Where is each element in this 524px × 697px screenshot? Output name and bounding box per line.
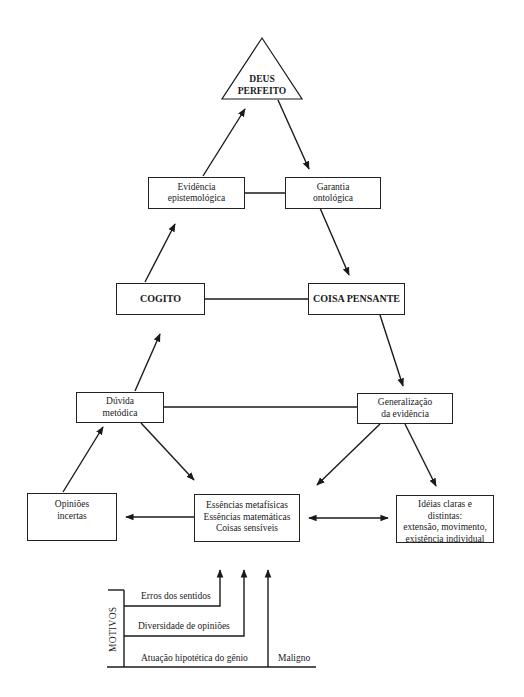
node-text: Generalização — [378, 397, 432, 409]
motivo-genio: Atuação hipotética do gênio — [141, 653, 248, 663]
motivo-erros-sentidos: Erros dos sentidos — [141, 591, 211, 601]
node-generalizacao: Generalização da evidência — [357, 393, 453, 424]
node-text: epistemológica — [168, 193, 226, 205]
node-text: da evidência — [381, 409, 429, 421]
apex-line-2: PERFEITO — [225, 86, 299, 98]
node-text: COGITO — [140, 293, 181, 305]
node-text: incertas — [57, 511, 87, 523]
node-duvida: Dúvida metódica — [76, 392, 164, 423]
node-text: Opiniões — [55, 499, 89, 511]
motivo-maligno: Maligno — [278, 653, 310, 663]
apex-deus-perfeito: DEUS PERFEITO — [225, 74, 299, 97]
node-essencias: Essências metafísicas Essências matemáti… — [194, 494, 300, 542]
node-text: Essências matemáticas — [204, 512, 291, 524]
node-text: Garantia — [317, 182, 350, 194]
node-text: metódica — [103, 408, 138, 420]
node-text: Dúvida — [106, 396, 134, 408]
node-text: Coisas sensíveis — [216, 523, 278, 535]
node-text: extensão, movimento, — [403, 522, 487, 534]
node-text: distintas: — [428, 511, 462, 523]
motivo-diversidade-opinioes: Diversidade de opiniões — [138, 621, 230, 631]
apex-line-1: DEUS — [225, 74, 299, 86]
node-cogito: COGITO — [116, 283, 205, 315]
node-text: Idéias claras e — [418, 499, 472, 511]
node-text: Evidência — [178, 182, 216, 194]
diagram-connectors — [0, 0, 524, 697]
node-text: Essências metafísicas — [206, 500, 288, 512]
node-coisa-pensante: COISA PENSANTE — [308, 283, 405, 315]
node-ideias: Idéias claras e distintas: extensão, mov… — [396, 495, 494, 543]
motivos-title: MOTIVOS — [108, 607, 118, 652]
node-text: existência individual — [406, 534, 485, 546]
node-garantia: Garantia ontológica — [285, 177, 381, 209]
node-evidencia: Evidência epistemológica — [148, 177, 245, 209]
node-text: ontológica — [313, 193, 353, 205]
node-text: COISA PENSANTE — [313, 293, 400, 305]
node-opinioes: Opiniões incertas — [27, 493, 117, 541]
